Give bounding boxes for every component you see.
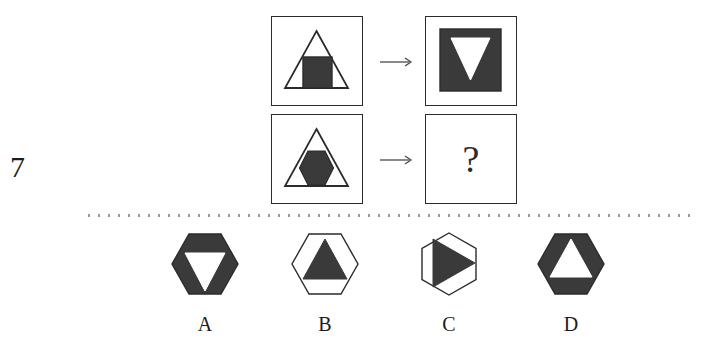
question-number: 7 [10, 152, 25, 182]
white-hexagon-with-dark-up-triangle [289, 231, 361, 297]
arrow-right-icon [379, 55, 415, 69]
option-c-label: C [406, 314, 492, 334]
inner-square-shape [303, 57, 332, 88]
option-c-shape[interactable] [406, 228, 492, 300]
panel-top-left [271, 16, 363, 106]
triangle-with-hexagon-figure [272, 115, 361, 202]
option-b[interactable]: B [282, 228, 368, 334]
option-b-label: B [282, 314, 368, 334]
option-a-shape[interactable] [162, 228, 248, 300]
panel-top-right [425, 16, 517, 106]
arrow-row-2 [379, 153, 415, 167]
option-d-label: D [528, 314, 614, 334]
triangle-with-square-figure [272, 17, 361, 104]
arrow-row-1 [379, 55, 415, 69]
square-with-triangle-figure [426, 17, 515, 104]
option-b-shape[interactable] [282, 228, 368, 300]
panel-bottom-right: ? [425, 114, 517, 204]
dark-hexagon-with-white-down-triangle [169, 231, 241, 297]
dark-hexagon-with-white-up-triangle [535, 231, 607, 297]
option-a-label: A [162, 314, 248, 334]
puzzle-page: 7 ? [0, 0, 702, 351]
white-hexagon-with-dark-right-triangle [413, 231, 485, 297]
option-a[interactable]: A [162, 228, 248, 334]
unknown-answer-placeholder: ? [426, 115, 516, 203]
panel-bottom-left [271, 114, 363, 204]
section-divider [88, 214, 696, 217]
option-d-shape[interactable] [528, 228, 614, 300]
option-d[interactable]: D [528, 228, 614, 334]
option-c[interactable]: C [406, 228, 492, 334]
arrow-right-icon [379, 153, 415, 167]
